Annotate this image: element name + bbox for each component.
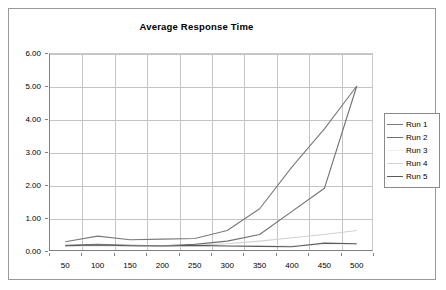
series-line-run-1: [65, 86, 357, 242]
x-axis-tick: [276, 253, 277, 256]
series-lines: [49, 53, 373, 251]
x-axis-tick: [146, 253, 147, 256]
y-axis-tick-label: 0.00: [25, 247, 41, 256]
x-axis-tick: [114, 253, 115, 256]
x-axis-tick: [211, 253, 212, 256]
x-axis-tick-label: 200: [156, 261, 169, 270]
x-axis-tick-label: 350: [253, 261, 266, 270]
legend-item-label: Run 5: [406, 172, 427, 181]
y-axis-tick: [45, 251, 48, 252]
y-axis-tick: [45, 218, 48, 219]
y-axis-tick: [45, 86, 48, 87]
y-axis-tick: [45, 53, 48, 54]
legend-line-swatch-icon: [387, 124, 403, 125]
legend-item-run-2[interactable]: Run 2: [387, 131, 436, 144]
x-axis-tick: [49, 253, 50, 256]
chart-frame: Average Response Time 0.001.002.003.004.…: [8, 8, 436, 280]
x-axis-tick: [308, 253, 309, 256]
x-axis-tick: [243, 253, 244, 256]
legend-item-run-3[interactable]: Run 3: [387, 144, 436, 157]
y-axis-labels: 0.001.002.003.004.005.006.00: [9, 53, 45, 251]
y-axis-tick-label: 6.00: [25, 49, 41, 58]
legend-item-label: Run 2: [406, 133, 427, 142]
y-axis-tick-label: 2.00: [25, 181, 41, 190]
legend-item-run-4[interactable]: Run 4: [387, 157, 436, 170]
series-line-run-2: [65, 86, 357, 246]
x-axis-tick-label: 250: [188, 261, 201, 270]
x-axis-labels: 50100150200250300350400450500: [49, 253, 373, 275]
legend-line-swatch-icon: [387, 163, 403, 164]
x-axis-tick: [179, 253, 180, 256]
y-axis-tick: [45, 152, 48, 153]
y-axis-tick: [45, 185, 48, 186]
y-axis-tick-label: 4.00: [25, 115, 41, 124]
x-axis-tick-label: 450: [318, 261, 331, 270]
x-axis-tick: [373, 253, 374, 256]
series-line-run-4: [65, 231, 357, 247]
legend-item-label: Run 1: [406, 120, 427, 129]
legend-item-run-5[interactable]: Run 5: [387, 170, 436, 183]
y-axis-tick-label: 3.00: [25, 148, 41, 157]
chart-legend: Run 1Run 2Run 3Run 4Run 5: [384, 113, 440, 188]
x-axis-tick-label: 500: [350, 261, 363, 270]
x-axis-tick-label: 100: [91, 261, 104, 270]
chart-title: Average Response Time: [9, 21, 384, 32]
x-axis-tick: [341, 253, 342, 256]
legend-item-label: Run 3: [406, 146, 427, 155]
legend-item-label: Run 4: [406, 159, 427, 168]
x-axis-tick: [81, 253, 82, 256]
legend-line-swatch-icon: [387, 137, 403, 138]
x-axis-tick-label: 300: [221, 261, 234, 270]
x-axis-tick-label: 50: [61, 261, 70, 270]
legend-item-run-1[interactable]: Run 1: [387, 118, 436, 131]
x-axis-tick-label: 150: [123, 261, 136, 270]
x-axis-tick-label: 400: [285, 261, 298, 270]
legend-line-swatch-icon: [387, 150, 403, 151]
legend-line-swatch-icon: [387, 176, 403, 177]
y-axis-tick-label: 5.00: [25, 82, 41, 91]
y-axis-tick: [45, 119, 48, 120]
y-axis-tick-label: 1.00: [25, 214, 41, 223]
